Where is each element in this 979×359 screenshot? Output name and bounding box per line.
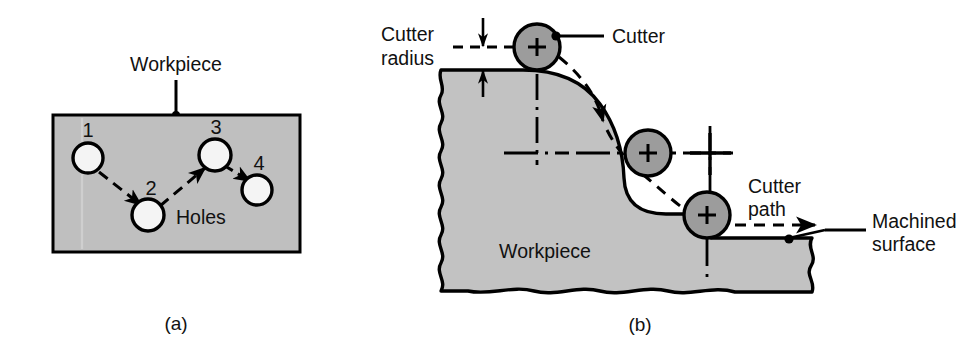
panel-b-cutter-path-label-line2: path <box>748 198 786 220</box>
panel-b-machined-surface-label-line2: surface <box>872 233 936 255</box>
panel-b-machined-surface-leader-dot <box>784 234 793 243</box>
panel-a-hole-number-3: 3 <box>210 116 221 138</box>
panel-b-cutter-radius-label-line2: radius <box>381 47 434 69</box>
panel-b-caption: (b) <box>628 314 651 335</box>
panel-b-cutter-top <box>514 24 560 70</box>
panel-a-hole-3 <box>199 139 231 171</box>
panel-a-caption: (a) <box>164 313 187 334</box>
panel-b-machined-surface-label-line1: Machined <box>872 210 957 232</box>
panel-b-cutter-leader-dot <box>551 31 560 40</box>
panel-a-hole-4 <box>242 175 272 205</box>
panel-b-cutter-radius-label-line1: Cutter <box>381 23 435 45</box>
panel-b-cutter-path-label-line1: Cutter <box>748 175 802 197</box>
panel-b-cutter-middle <box>625 130 671 176</box>
figure-root: Workpiece 1 2 3 4 Holes (a) <box>0 0 979 359</box>
panel-b-workpiece-label: Workpiece <box>499 240 591 262</box>
panel-a-workpiece-label: Workpiece <box>130 53 222 75</box>
panel-a-hole-1 <box>73 143 103 173</box>
panel-a-hole-number-1: 1 <box>82 119 93 141</box>
panel-a-hole-number-4: 4 <box>253 152 264 174</box>
panel-b-cutter-bottom <box>684 192 730 238</box>
panel-b-cutter-label: Cutter <box>612 25 666 47</box>
panel-a-holes-label: Holes <box>176 206 226 228</box>
panel-a-hole-number-2: 2 <box>145 177 156 199</box>
panel-a-hole-2 <box>132 199 164 231</box>
